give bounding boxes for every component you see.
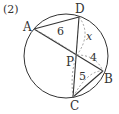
length-DP: x [86,31,92,42]
point-D-label: D [75,3,85,15]
problem-number: (2) [3,4,19,15]
point-C-label: C [70,100,79,112]
point-B-label: B [104,73,113,85]
segment-CB [73,71,103,97]
point-P-label: P [66,56,74,68]
length-PB: 4 [90,52,97,63]
length-AP: 6 [57,26,64,37]
circle-chord-diagram [0,0,119,114]
point-A-label: A [23,21,32,33]
length-PC: 5 [79,71,86,82]
